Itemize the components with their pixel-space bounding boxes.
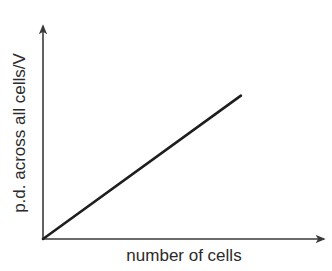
y-axis-label: p.d. across all cells/V [10, 53, 29, 213]
data-line [43, 96, 241, 239]
x-axis-label: number of cells [126, 246, 241, 265]
line-chart: number of cells p.d. across all cells/V [0, 0, 332, 271]
